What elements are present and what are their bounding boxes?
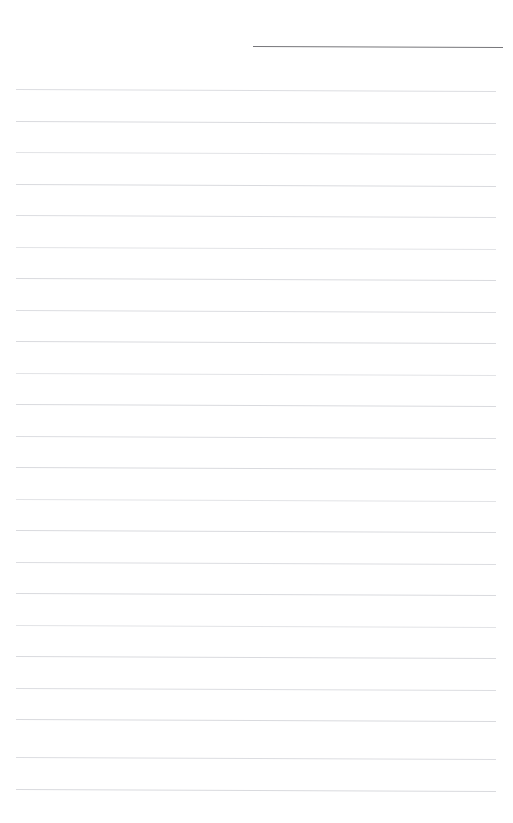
- rule-line: [16, 89, 496, 92]
- rule-line: [16, 757, 496, 760]
- rule-line: [16, 625, 496, 628]
- rule-line: [16, 121, 496, 124]
- rule-line: [16, 247, 496, 250]
- rule-line: [16, 404, 496, 407]
- rule-line: [16, 719, 496, 722]
- notebook-page: [0, 0, 513, 823]
- rule-line: [16, 467, 496, 470]
- rule-line: [16, 341, 496, 344]
- rule-line: [16, 562, 496, 565]
- rule-line: [16, 310, 496, 313]
- rule-line: [16, 530, 496, 533]
- rule-line: [16, 593, 496, 596]
- rule-line: [16, 436, 496, 439]
- rule-line: [16, 688, 496, 691]
- rule-line: [16, 152, 496, 155]
- rule-line: [16, 184, 496, 187]
- rule-line: [16, 656, 496, 659]
- rule-line: [16, 789, 496, 792]
- rule-line: [16, 278, 496, 281]
- date-line: [253, 46, 503, 48]
- rule-line: [16, 373, 496, 376]
- rule-line: [16, 215, 496, 218]
- rule-line: [16, 499, 496, 502]
